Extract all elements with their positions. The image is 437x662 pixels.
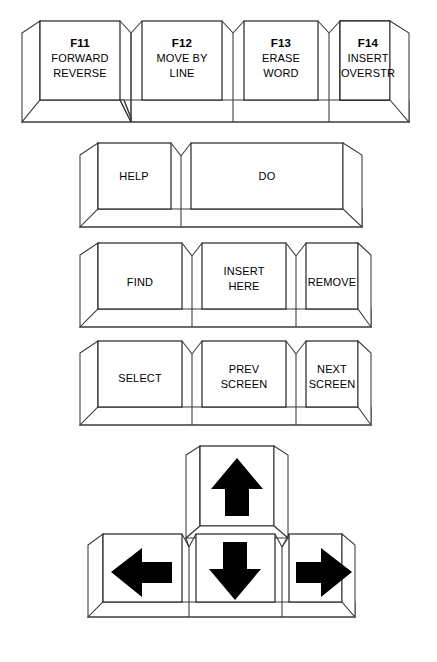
editing-keypad-diagram: F11 FORWARD REVERSE F12 MOVE BY LINE F13… [0, 0, 437, 662]
insert-here-label-line1: INSERT [223, 265, 264, 277]
do-label: DO [259, 170, 276, 182]
prev-screen-label-line2: SCREEN [221, 378, 268, 390]
key-insert-here[interactable]: INSERT HERE [202, 243, 286, 309]
help-do-base-strip [80, 209, 362, 227]
select-row-base-strip [80, 407, 371, 425]
find-label: FIND [127, 276, 153, 288]
key-f13[interactable]: F13 ERASE WORD [244, 21, 318, 100]
arrow-up-right-side-face [274, 446, 288, 538]
key-find[interactable]: FIND [98, 243, 182, 309]
arrow-up-left-side-face [186, 446, 200, 538]
function-key-row: F11 FORWARD REVERSE F12 MOVE BY LINE F13… [22, 21, 409, 122]
remove-label: REMOVE [308, 276, 357, 288]
f11-label-line2: FORWARD [51, 52, 108, 64]
f12-label-line2: MOVE BY [156, 52, 208, 64]
function-row-base-strip [22, 100, 409, 122]
f13-label-line3: WORD [263, 67, 298, 79]
select-label: SELECT [118, 372, 162, 384]
f12-label-line1: F12 [172, 37, 192, 49]
f12-label-line3: LINE [169, 67, 194, 79]
find-insert-remove-row: FIND INSERT HERE REMOVE [80, 243, 371, 327]
key-arrow-up[interactable] [186, 446, 288, 538]
key-arrow-down[interactable] [196, 534, 275, 602]
f14-label-line3: OVERSTR [341, 67, 395, 79]
key-f12[interactable]: F12 MOVE BY LINE [142, 21, 222, 100]
f11-label-line3: REVERSE [53, 67, 107, 79]
prev-screen-label-line1: PREV [229, 363, 260, 375]
find-row-base-strip [80, 309, 371, 327]
select-screen-row: SELECT PREV SCREEN NEXT SCREEN [80, 341, 371, 425]
f13-label-line1: F13 [271, 37, 291, 49]
f14-label-line2: INSERT [347, 52, 388, 64]
next-screen-label-line1: NEXT [317, 363, 347, 375]
arrow-row-base-strip [88, 602, 355, 617]
insert-here-label-line2: HERE [228, 280, 259, 292]
key-help[interactable]: HELP [98, 143, 171, 209]
f14-label-line1: F14 [358, 37, 379, 49]
key-arrow-left[interactable] [103, 534, 182, 602]
key-select[interactable]: SELECT [98, 341, 182, 407]
f11-label-line1: F11 [70, 37, 90, 49]
help-label: HELP [119, 170, 148, 182]
help-do-row: HELP DO [80, 143, 362, 227]
key-prev-screen[interactable]: PREV SCREEN [202, 341, 286, 407]
next-screen-label-line2: SCREEN [309, 378, 356, 390]
f13-label-line2: ERASE [262, 52, 300, 64]
